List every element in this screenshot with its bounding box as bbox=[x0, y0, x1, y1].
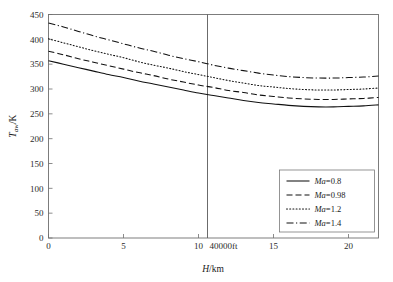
altitude-annotation-label: 40000ft bbox=[210, 241, 238, 251]
y-axis-ticks: 050100150200250300350400450 bbox=[30, 10, 53, 244]
curve-ma-1-4 bbox=[49, 23, 379, 78]
y-tick-label: 450 bbox=[30, 10, 44, 20]
legend-label-1[interactable]: Ma=0.8 bbox=[314, 176, 342, 186]
x-tick-label: 20 bbox=[344, 241, 354, 251]
y-tick-label: 200 bbox=[30, 134, 44, 144]
y-tick-label: 50 bbox=[35, 208, 45, 218]
y-tick-label: 300 bbox=[30, 84, 44, 94]
legend-label-3[interactable]: Ma=1.2 bbox=[314, 204, 342, 214]
x-tick-label: 5 bbox=[121, 241, 126, 251]
curve-ma-1-2 bbox=[49, 39, 379, 90]
x-tick-label: 10 bbox=[194, 241, 204, 251]
legend-label-2[interactable]: Ma=0.98 bbox=[314, 190, 346, 200]
altitude-marker-line: 40000ft bbox=[208, 15, 238, 252]
chart-canvas: 050100150200250300350400450 05101520 400… bbox=[0, 0, 393, 282]
curve-ma-0-98 bbox=[49, 51, 379, 99]
curve-ma-0-8 bbox=[49, 61, 379, 107]
y-axis-title: Taw/K bbox=[8, 114, 20, 137]
data-curves bbox=[49, 23, 379, 107]
x-tick-label: 0 bbox=[46, 241, 51, 251]
x-axis-ticks: 05101520 bbox=[46, 234, 353, 251]
y-tick-label: 400 bbox=[30, 35, 44, 45]
figure-container: 050100150200250300350400450 05101520 400… bbox=[0, 0, 393, 282]
y-tick-label: 150 bbox=[30, 159, 44, 169]
x-axis-title: H/km bbox=[201, 264, 224, 274]
y-tick-label: 0 bbox=[39, 233, 44, 243]
y-tick-label: 350 bbox=[30, 59, 44, 69]
legend-label-4[interactable]: Ma=1.4 bbox=[314, 218, 343, 228]
y-tick-label: 100 bbox=[30, 184, 44, 194]
x-tick-label: 15 bbox=[269, 241, 279, 251]
y-tick-label: 250 bbox=[30, 109, 44, 119]
legend[interactable]: Ma=0.8Ma=0.98Ma=1.2Ma=1.4 bbox=[280, 170, 375, 232]
